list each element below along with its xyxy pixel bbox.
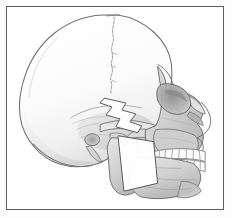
figure-frame: Lateral view of human skull	[6, 6, 224, 210]
figure-root: Lateral view of human skull	[0, 0, 232, 218]
external-acoustic-meatus	[85, 134, 100, 146]
skull-illustration	[7, 7, 223, 209]
ramus-resection-overlay[interactable]	[118, 136, 158, 191]
